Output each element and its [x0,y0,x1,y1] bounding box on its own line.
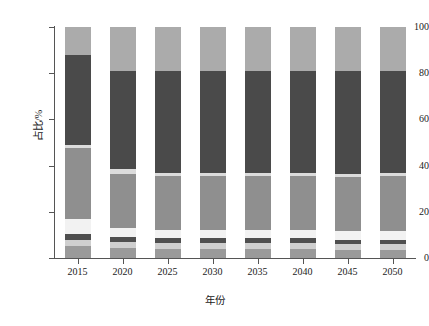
chart-figure: 020406080100 201520202025203020352040204… [0,0,429,326]
y-tick-20 [49,212,54,213]
bar-2025[interactable] [155,27,181,258]
bar-2040[interactable] [290,27,316,258]
y-tick-80 [49,73,54,74]
y-axis-title: 占比/% [30,81,45,171]
bar-segment-2040-series-2[interactable] [290,243,316,249]
bar-segment-2025-series-2[interactable] [155,243,181,249]
bar-segment-2045-series-6[interactable] [335,174,361,177]
x-tick-2025 [168,259,169,264]
bar-segment-2020-series-7[interactable] [110,71,136,169]
x-tick-2050 [393,259,394,264]
bar-segment-2040-series-1[interactable] [290,249,316,258]
bar-segment-2020-series-3[interactable] [110,237,136,242]
bar-segment-2045-series-8[interactable] [335,27,361,71]
bar-2020[interactable] [110,27,136,258]
bar-segment-2035-series-6[interactable] [245,173,271,176]
bar-segment-2050-series-1[interactable] [380,250,406,258]
bar-segment-2030-series-3[interactable] [200,238,226,243]
bar-segment-2025-series-3[interactable] [155,238,181,243]
x-tick-2015 [78,259,79,264]
x-tick-2045 [348,259,349,264]
bar-segment-2030-series-7[interactable] [200,71,226,173]
bar-segment-2030-series-5[interactable] [200,176,226,230]
bar-segment-2050-series-4[interactable] [380,231,406,239]
bar-segment-2035-series-3[interactable] [245,238,271,243]
bar-segment-2035-series-7[interactable] [245,71,271,173]
bar-segment-2035-series-4[interactable] [245,230,271,238]
bar-segment-2045-series-2[interactable] [335,244,361,250]
bar-segment-2045-series-1[interactable] [335,250,361,258]
bar-segment-2025-series-6[interactable] [155,173,181,176]
bar-segment-2020-series-5[interactable] [110,174,136,228]
x-axis-line [54,258,416,259]
bar-segment-2050-series-6[interactable] [380,173,406,176]
bar-segment-2045-series-4[interactable] [335,231,361,239]
bar-2035[interactable] [245,27,271,258]
bar-segment-2015-series-6[interactable] [65,145,91,148]
bar-segment-2035-series-5[interactable] [245,176,271,230]
bar-segment-2050-series-2[interactable] [380,244,406,250]
bar-segment-2025-series-1[interactable] [155,249,181,258]
bar-segment-2015-series-1[interactable] [65,246,91,258]
bar-segment-2020-series-2[interactable] [110,242,136,248]
bar-segment-2050-series-3[interactable] [380,240,406,245]
bar-segment-2030-series-6[interactable] [200,173,226,176]
y-tick-100 [49,27,54,28]
bar-segment-2020-series-8[interactable] [110,27,136,71]
bar-segment-2040-series-5[interactable] [290,176,316,230]
bar-segment-2030-series-2[interactable] [200,243,226,249]
bar-segment-2020-series-6[interactable] [110,169,136,174]
bar-segment-2050-series-5[interactable] [380,176,406,231]
y-tick-40 [49,166,54,167]
bar-segment-2035-series-8[interactable] [245,27,271,71]
x-tick-2020 [123,259,124,264]
x-tick-2035 [258,259,259,264]
bar-segment-2035-series-2[interactable] [245,243,271,249]
bar-2045[interactable] [335,27,361,258]
bar-segment-2040-series-3[interactable] [290,238,316,243]
bar-segment-2015-series-5[interactable] [65,148,91,218]
bar-segment-2040-series-8[interactable] [290,27,316,71]
bar-segment-2030-series-8[interactable] [200,27,226,71]
x-axis-title: 年份 [0,292,429,307]
bar-segment-2020-series-4[interactable] [110,228,136,237]
bar-segment-2015-series-2[interactable] [65,240,91,247]
y-tick-60 [49,119,54,120]
bar-segment-2030-series-1[interactable] [200,249,226,258]
x-tick-2030 [213,259,214,264]
bar-segment-2050-series-8[interactable] [380,27,406,71]
bar-2050[interactable] [380,27,406,258]
bar-segment-2030-series-4[interactable] [200,230,226,238]
bar-segment-2025-series-8[interactable] [155,27,181,71]
bar-segment-2035-series-1[interactable] [245,249,271,258]
bar-2015[interactable] [65,27,91,258]
bar-segment-2015-series-4[interactable] [65,219,91,234]
bar-segment-2040-series-7[interactable] [290,71,316,173]
x-tick-2040 [303,259,304,264]
bar-segment-2025-series-4[interactable] [155,230,181,238]
bar-segment-2025-series-7[interactable] [155,71,181,173]
bar-segment-2040-series-6[interactable] [290,173,316,176]
bar-2030[interactable] [200,27,226,258]
bar-segment-2040-series-4[interactable] [290,230,316,238]
x-tick-label-2050: 2050 [363,266,423,278]
bar-segment-2025-series-5[interactable] [155,176,181,230]
bar-segment-2045-series-5[interactable] [335,177,361,231]
bar-segment-2045-series-3[interactable] [335,240,361,245]
bar-segment-2050-series-7[interactable] [380,71,406,173]
bar-segment-2045-series-7[interactable] [335,71,361,174]
bar-segment-2015-series-3[interactable] [65,234,91,240]
plot-area [55,27,415,258]
bar-segment-2015-series-8[interactable] [65,27,91,55]
bar-segment-2020-series-1[interactable] [110,248,136,258]
bar-segment-2015-series-7[interactable] [65,55,91,145]
y-tick-0 [49,258,54,259]
